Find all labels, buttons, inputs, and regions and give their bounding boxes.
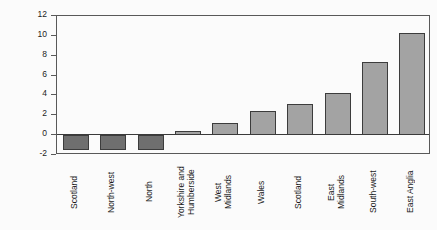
y-tick-label: -2 xyxy=(39,148,47,159)
bar xyxy=(250,111,276,135)
bar xyxy=(63,135,89,150)
y-tick-label: 8 xyxy=(42,49,47,60)
y-tick-label: 0 xyxy=(42,128,47,139)
y-tick: 0 xyxy=(0,134,56,135)
bar xyxy=(399,33,425,135)
bar xyxy=(362,62,388,135)
y-tick-label: 2 xyxy=(42,108,47,119)
bar xyxy=(100,135,126,150)
bar xyxy=(325,93,351,135)
y-tick: 4 xyxy=(0,94,56,95)
plot-area xyxy=(56,15,430,154)
x-axis-label: East Anglia xyxy=(406,158,416,226)
bar xyxy=(287,104,313,135)
x-axis-label: Scotland xyxy=(294,158,304,226)
y-axis-title: Percentage change xyxy=(14,0,28,26)
x-axis-label: West Midlands xyxy=(214,158,234,226)
y-tick-label: 4 xyxy=(42,88,47,99)
x-axis-label: North xyxy=(145,158,155,226)
y-tick: 6 xyxy=(0,75,56,76)
y-tick: 10 xyxy=(0,35,56,36)
y-tick-label: 6 xyxy=(42,69,47,80)
x-axis-label: North-west xyxy=(107,158,117,226)
y-tick: -2 xyxy=(0,154,56,155)
x-axis-label: Wales xyxy=(257,158,267,226)
zero-baseline xyxy=(57,134,429,135)
x-axis-label: South-west xyxy=(369,158,379,226)
y-tick: 2 xyxy=(0,114,56,115)
x-axis-label: Yorkshire and Humberside xyxy=(177,158,197,226)
y-tick: 12 xyxy=(0,15,56,16)
x-axis-label: Scotland xyxy=(70,158,80,226)
bar xyxy=(138,135,164,150)
y-tick-label: 12 xyxy=(38,9,47,20)
bar-chart-figure: Percentage change -2024681012 ScotlandNo… xyxy=(0,0,437,230)
y-tick-label: 10 xyxy=(38,29,47,40)
x-axis-label: East Midlands xyxy=(327,158,347,226)
y-tick-mark xyxy=(51,154,56,155)
y-tick: 8 xyxy=(0,55,56,56)
